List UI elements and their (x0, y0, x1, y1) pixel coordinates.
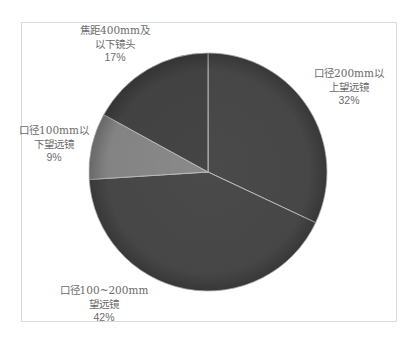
label-100-200mm: 口径100~200mm 望远镜 42% (58, 284, 150, 325)
label-200mm-plus: 口径200mm以 上望远镜 32% (306, 67, 392, 108)
label-100mm-below: 口径100mm以 下望远镜 9% (18, 124, 90, 165)
label-400mm-lens: 焦距400mm及 以下镜头 17% (68, 24, 162, 65)
pie-shading (89, 53, 327, 291)
